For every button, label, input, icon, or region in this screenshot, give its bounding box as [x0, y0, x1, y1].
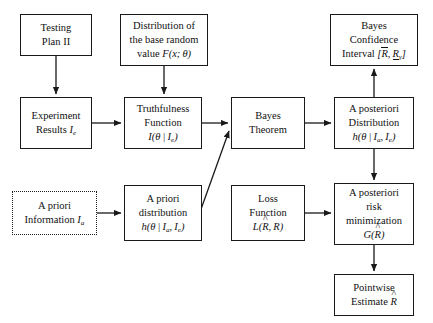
- testing-plan-line-2: Plan II: [42, 35, 70, 49]
- base-distribution-line-2: the base random: [130, 33, 199, 47]
- bayes-theorem-node[interactable]: Bayes Theorem: [231, 97, 305, 149]
- truthfulness-function-formula: I(θ | Ie): [148, 130, 177, 144]
- loss-function-formula: L(R^, R): [253, 220, 283, 234]
- bayes-confidence-interval-formula: [R, Rγ]: [377, 48, 406, 59]
- pointwise-estimate-line-1: Pointwise: [353, 281, 394, 295]
- a-posteriori-risk-line-2: risk: [366, 200, 382, 214]
- a-posteriori-risk-line-3: minimization: [346, 214, 402, 228]
- testing-plan-node[interactable]: Testing Plan II: [20, 14, 92, 56]
- base-distribution-line-3: value F(x; θ): [137, 47, 191, 61]
- a-posteriori-risk-node[interactable]: A posteriori risk minimization G(R^): [334, 183, 414, 245]
- a-priori-distribution-node[interactable]: A priori distribution h(θ | Ia, Ie): [124, 185, 202, 241]
- a-priori-information-line-2: Information Ia: [25, 213, 85, 227]
- bayes-confidence-interval-line-2: Confidence: [350, 33, 398, 47]
- flowchart-canvas: Testing Plan II Distribution of the base…: [0, 0, 433, 323]
- a-priori-distribution-formula: h(θ | Ia, Ie): [142, 220, 185, 234]
- a-posteriori-distribution-node[interactable]: A posteriori Distribution h(θ | Ia, Ie): [334, 97, 414, 149]
- base-distribution-formula: F(x; θ): [162, 48, 191, 59]
- bayes-confidence-interval-node[interactable]: Bayes Confidence Interval [R, Rγ]: [330, 14, 418, 66]
- truthfulness-function-node[interactable]: Truthfulness Function I(θ | Ie): [124, 97, 202, 149]
- experiment-results-node[interactable]: Experiment Results Ie: [20, 97, 92, 149]
- base-distribution-line-3-prefix: value: [137, 48, 162, 59]
- a-priori-distribution-line-2: distribution: [139, 206, 187, 220]
- pointwise-estimate-line-2-prefix: Estimate: [351, 296, 390, 307]
- experiment-results-line-2: Results Ie: [36, 123, 76, 137]
- base-distribution-line-1: Distribution of: [133, 19, 195, 33]
- a-priori-information-line-2-prefix: Information: [25, 214, 78, 225]
- edge-a-priori-distribution-to-bayes-theorem: [200, 131, 229, 212]
- bayes-confidence-interval-line-3: Interval [R, Rγ]: [342, 47, 406, 61]
- a-priori-distribution-line-1: A priori: [147, 192, 180, 206]
- a-posteriori-distribution-line-2: Distribution: [349, 116, 400, 130]
- a-posteriori-risk-line-1: A posteriori: [349, 186, 399, 200]
- a-priori-information-symbol: Ia: [77, 214, 84, 225]
- bayes-confidence-interval-line-1: Bayes: [361, 19, 387, 33]
- bayes-theorem-line-2: Theorem: [249, 123, 287, 137]
- testing-plan-line-1: Testing: [41, 21, 72, 35]
- loss-function-node[interactable]: Loss Function L(R^, R): [231, 185, 305, 241]
- base-distribution-node[interactable]: Distribution of the base random value F(…: [120, 14, 208, 66]
- a-posteriori-distribution-line-1: A posteriori: [349, 102, 399, 116]
- experiment-results-line-1: Experiment: [32, 109, 81, 123]
- loss-function-line-1: Loss: [258, 192, 278, 206]
- truthfulness-function-line-2: Function: [144, 116, 181, 130]
- pointwise-estimate-node[interactable]: Pointwise Estimate R^: [334, 274, 414, 316]
- pointwise-estimate-line-2: Estimate R^: [351, 295, 397, 309]
- truthfulness-function-line-1: Truthfulness: [137, 102, 190, 116]
- pointwise-estimate-symbol: R^: [390, 296, 396, 307]
- a-posteriori-distribution-formula: h(θ | Ia, Ie): [353, 130, 396, 144]
- experiment-results-symbol: Ie: [69, 124, 76, 135]
- a-posteriori-risk-formula: G(R^): [363, 228, 384, 242]
- a-priori-information-node[interactable]: A priori Information Ia: [12, 191, 97, 235]
- bayes-theorem-line-1: Bayes: [255, 109, 281, 123]
- bayes-confidence-interval-line-3-prefix: Interval: [342, 48, 377, 59]
- a-priori-information-line-1: A priori: [38, 199, 71, 213]
- experiment-results-line-2-prefix: Results: [36, 124, 70, 135]
